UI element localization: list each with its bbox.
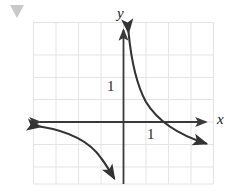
- x-axis-label: x: [217, 112, 224, 127]
- x-axis-tick-label-1: 1: [147, 127, 155, 142]
- y-axis-label: y: [117, 6, 124, 21]
- hyperbola-branch-upper-right: [129, 32, 207, 144]
- triangle-bullet-icon: [10, 5, 24, 18]
- coordinate-plane-svg: [0, 0, 235, 194]
- graph-figure: y x 1 1: [0, 0, 235, 194]
- hyperbola-branch-lower-left: [40, 127, 114, 179]
- y-axis-tick-label-1: 1: [107, 79, 115, 94]
